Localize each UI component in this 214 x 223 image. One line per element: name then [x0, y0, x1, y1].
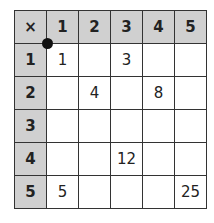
cell [79, 143, 111, 176]
cell [111, 176, 143, 209]
cell [111, 77, 143, 110]
cell: 1 [47, 44, 79, 77]
row-header: 1 [15, 44, 47, 77]
cell [143, 110, 175, 143]
col-header: 3 [111, 11, 143, 44]
cell [79, 110, 111, 143]
row-header: 5 [15, 176, 47, 209]
cell [79, 44, 111, 77]
cell: 25 [175, 176, 207, 209]
cell [47, 110, 79, 143]
table-row: 1 1 3 [15, 44, 207, 77]
table-row: 3 [15, 110, 207, 143]
table-row: 2 4 8 [15, 77, 207, 110]
cell: 8 [143, 77, 175, 110]
cell: 12 [111, 143, 143, 176]
table-row: 5 5 25 [15, 176, 207, 209]
cell [175, 110, 207, 143]
cell [175, 44, 207, 77]
row-header: 3 [15, 110, 47, 143]
cell [47, 77, 79, 110]
cell [143, 44, 175, 77]
col-header: 5 [175, 11, 207, 44]
cell: 5 [47, 176, 79, 209]
cell [47, 143, 79, 176]
cell [143, 176, 175, 209]
cell [79, 176, 111, 209]
cell [143, 143, 175, 176]
cell [111, 110, 143, 143]
corner-dot-marker [42, 38, 53, 49]
cell: 4 [79, 77, 111, 110]
cell: 3 [111, 44, 143, 77]
row-header: 4 [15, 143, 47, 176]
col-header: 4 [143, 11, 175, 44]
table-row: 4 12 [15, 143, 207, 176]
cell [175, 77, 207, 110]
col-header: 2 [79, 11, 111, 44]
row-header: 2 [15, 77, 47, 110]
corner-cell: × [15, 11, 47, 44]
cell [175, 143, 207, 176]
